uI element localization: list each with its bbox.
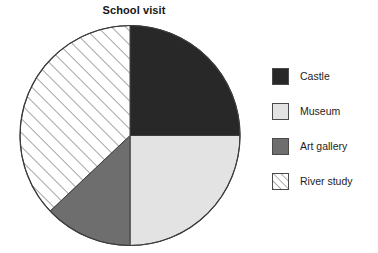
solid-dark-swatch-icon [272, 68, 289, 85]
pie-slice-castle[interactable] [130, 26, 240, 136]
pie-chart [0, 0, 268, 253]
solid-light-swatch-icon [272, 103, 289, 120]
legend: Castle Museum Art gallery River study [272, 60, 378, 200]
pie-slice-museum[interactable] [130, 136, 240, 246]
hatched-swatch-icon [272, 173, 289, 190]
chart-page: School visit [0, 0, 378, 253]
legend-label: Museum [300, 103, 340, 120]
legend-item-museum[interactable]: Museum [272, 95, 378, 130]
legend-label: River study [300, 173, 353, 190]
legend-label: Art gallery [300, 138, 347, 155]
legend-item-castle[interactable]: Castle [272, 60, 378, 95]
legend-label: Castle [300, 68, 330, 85]
legend-item-river-study[interactable]: River study [272, 165, 378, 200]
solid-mid-swatch-icon [272, 138, 289, 155]
pie-chart-svg [0, 0, 268, 253]
pie-slices-group [20, 26, 240, 246]
legend-item-art-gallery[interactable]: Art gallery [272, 130, 378, 165]
